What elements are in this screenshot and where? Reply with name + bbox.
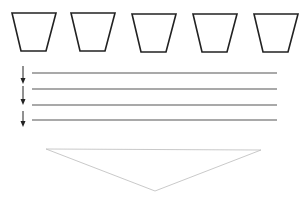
funnel-triangle-shape	[46, 149, 261, 191]
horizontal-lines	[32, 73, 277, 120]
funnel-triangle	[46, 149, 261, 191]
down-arrow-icon	[21, 111, 26, 127]
diagram-svg	[0, 0, 307, 203]
trapezoid-container-3	[132, 14, 176, 52]
trapezoid-container-4	[193, 14, 237, 52]
trapezoid-container-5	[254, 14, 298, 52]
diagram-canvas	[0, 0, 307, 203]
down-arrows	[21, 66, 26, 127]
down-arrow-icon	[21, 86, 26, 105]
down-arrow-icon	[21, 66, 26, 84]
trapezoid-container-1	[12, 13, 56, 51]
container-row	[12, 13, 298, 52]
trapezoid-container-2	[71, 13, 115, 51]
